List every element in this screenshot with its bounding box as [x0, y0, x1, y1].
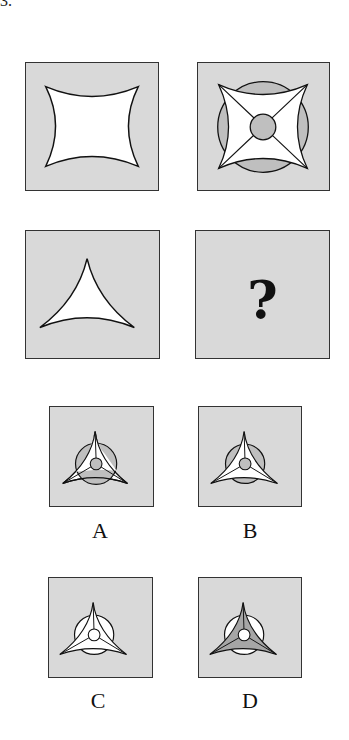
prompt-panel-answer: ? — [195, 230, 330, 359]
option-a[interactable] — [49, 406, 154, 507]
option-d-label: D — [230, 688, 270, 714]
question-mark: ? — [196, 269, 329, 330]
option-b-label: B — [230, 518, 270, 544]
option-c[interactable] — [48, 577, 153, 678]
four-point-star-with-circles-icon — [198, 63, 329, 190]
three-point-star-gray-fill-icon — [199, 578, 301, 677]
option-c-label: C — [78, 688, 118, 714]
option-b[interactable] — [198, 406, 302, 507]
three-point-star-icon — [26, 231, 159, 358]
four-point-star-icon — [26, 63, 158, 190]
option-d[interactable] — [198, 577, 302, 678]
option-a-label: A — [80, 518, 120, 544]
prompt-panel-3 — [25, 230, 160, 359]
prompt-panel-2 — [197, 62, 330, 191]
three-point-star-circle-over-icon — [50, 407, 153, 506]
prompt-panel-1 — [25, 62, 159, 191]
question-number: 3. — [0, 0, 12, 10]
three-point-star-circle-under-icon — [199, 407, 301, 506]
three-point-star-white-circle-icon — [49, 578, 152, 677]
